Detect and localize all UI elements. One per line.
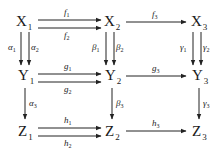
label-g3: g3 [152,64,160,76]
node-x1-sub: 1 [28,22,33,32]
node-z3-sub: 3 [202,132,207,142]
node-x3-base: X [191,13,202,29]
label-alpha2-sub: 2 [36,47,39,53]
label-beta2: β2 [116,43,123,55]
label-f2: f2 [64,31,70,43]
label-h2: h2 [64,139,72,151]
node-z1: Z1 [18,124,33,145]
label-h1-sub: 1 [69,120,72,126]
node-y1-base: Y [18,67,29,83]
node-z3-base: Z [192,123,201,139]
label-gamma3: γ3 [203,99,210,111]
node-y3: Y3 [192,68,208,89]
node-z3: Z3 [192,124,207,145]
node-x3: X3 [191,14,207,35]
label-alpha3: α3 [29,99,37,111]
node-y2-sub: 2 [117,76,122,86]
node-x3-sub: 3 [203,22,208,32]
label-g1: g1 [64,62,72,74]
label-beta2-sub: 2 [120,47,123,53]
node-z1-sub: 1 [28,132,33,142]
label-gamma1-sub: 1 [184,47,187,53]
node-x1: X1 [16,14,32,35]
label-g1-sub: 1 [69,66,72,72]
label-g2: g2 [64,85,72,97]
label-h1: h1 [64,116,72,128]
node-y2: Y2 [105,68,121,89]
label-h2-sub: 2 [69,143,72,149]
label-beta3: β3 [116,99,123,111]
label-alpha1: α1 [8,43,16,55]
label-f1: f1 [64,8,70,20]
label-g2-sub: 2 [69,89,72,95]
node-x1-base: X [16,13,27,29]
node-z2-base: Z [105,123,114,139]
node-x2-base: X [104,13,115,29]
node-z1-base: Z [18,123,27,139]
label-g3-sub: 3 [157,68,160,74]
label-gamma2: γ2 [203,43,210,55]
label-f3-sub: 3 [155,14,158,20]
label-f2-sub: 2 [67,35,70,41]
label-f1-sub: 1 [67,12,70,18]
node-x2: X2 [104,14,120,35]
label-alpha1-sub: 1 [13,47,16,53]
node-z2: Z2 [105,124,120,145]
label-h3: h3 [152,119,160,131]
label-f3: f3 [152,10,158,22]
label-beta1: β1 [92,43,99,55]
node-y3-sub: 3 [204,76,209,86]
label-gamma1: γ1 [180,43,187,55]
label-gamma3-sub: 3 [207,103,210,109]
label-h3-sub: 3 [157,123,160,129]
label-beta1-sub: 1 [96,47,99,53]
node-y1: Y1 [18,68,34,89]
node-y3-base: Y [192,67,203,83]
label-alpha3-sub: 3 [34,103,37,109]
node-y2-base: Y [105,67,116,83]
label-gamma2-sub: 2 [207,47,210,53]
label-beta3-sub: 3 [120,103,123,109]
node-y1-sub: 1 [30,76,35,86]
label-alpha2: α2 [31,43,39,55]
node-x2-sub: 2 [116,22,121,32]
node-z2-sub: 2 [115,132,120,142]
